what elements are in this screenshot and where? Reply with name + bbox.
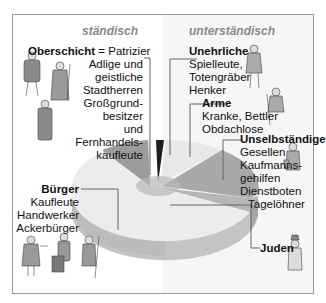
label-buerger: Bürger Kaufleute Handwerker Ackerbürger [10,183,79,235]
label-unehrliche: Unehrliche Spielleute, Totengräber Henke… [189,45,250,97]
figure-geistlicher [51,62,70,100]
figure-kaufmann [38,100,52,140]
label-oberschicht: Oberschicht = Patrizier [28,45,150,58]
label-juden: Juden [260,242,294,255]
label-arme: Arme Kranke, Bettler Obdachlose [202,97,278,136]
figure-buerger-1 [22,236,48,276]
oberschicht-details: Adlige und geistliche Stadtherren Großgr… [70,58,143,162]
header-staendisch: ständisch [82,24,138,38]
figure-handwerker [52,233,70,272]
figure-patrizier [24,52,40,96]
header-unterstaendisch: unterständisch [189,24,275,38]
oberschicht-title: Oberschicht [28,45,95,57]
label-unselbstaendige: Unselbständige Gesellen Kaufmanns- gehil… [240,133,326,211]
oberschicht-eq: = Patrizier [95,45,150,57]
